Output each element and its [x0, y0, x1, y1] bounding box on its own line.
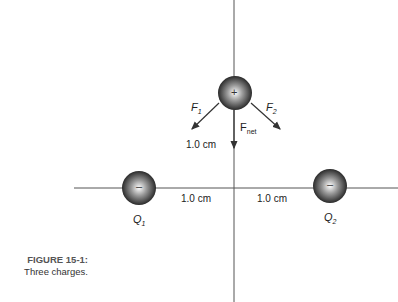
- left-distance-label: 1.0 cm: [181, 193, 211, 204]
- figure-caption: FIGURE 15-1: Three charges.: [0, 254, 88, 278]
- top-charge-sign: +: [231, 86, 237, 98]
- q1-charge-sign: –: [136, 180, 142, 192]
- figure-number: FIGURE 15-1:: [0, 254, 88, 266]
- f1-label: F1: [191, 101, 202, 115]
- figure-title: Three charges.: [24, 266, 88, 277]
- q2-charge-sign: –: [327, 178, 333, 190]
- fnet-label: Fnet: [240, 121, 256, 135]
- q2-label: Q2: [324, 211, 336, 225]
- f2-label: F2: [266, 101, 277, 115]
- q1-label: Q1: [133, 213, 145, 227]
- vertical-distance-label: 1.0 cm: [186, 139, 216, 150]
- right-distance-label: 1.0 cm: [257, 193, 287, 204]
